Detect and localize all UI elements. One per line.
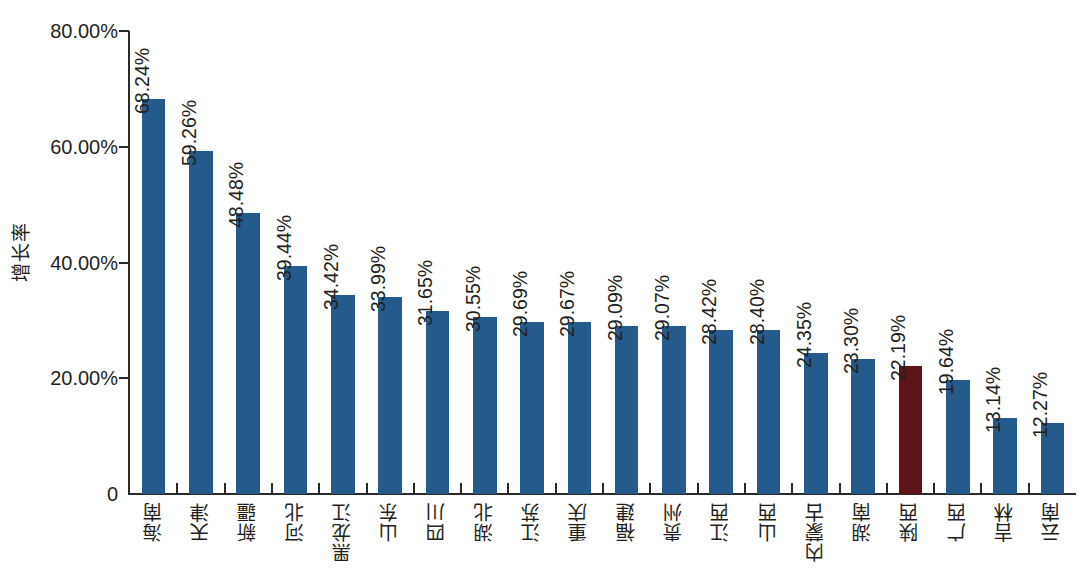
- bar-value-label: 28.40%: [746, 278, 769, 344]
- bar-group: 29.07%贵州: [662, 0, 686, 576]
- x-axis-category-label: 天津: [191, 502, 211, 542]
- x-axis-tick-mark: [602, 483, 604, 494]
- bar-value-label: 30.55%: [462, 266, 485, 332]
- x-axis-category-label: 云南: [1042, 502, 1062, 542]
- bar-highlighted: [899, 366, 923, 494]
- bar-value-label: 19.64%: [935, 329, 958, 395]
- bar-group: 33.99%山东: [378, 0, 402, 576]
- bar-value-label: 59.26%: [178, 100, 201, 166]
- x-axis-tick-mark: [839, 483, 841, 494]
- x-axis-category-label: 贵州: [664, 502, 684, 542]
- bar-value-label: 33.99%: [367, 246, 390, 312]
- plot-area: 68.24%海南59.26%天津48.48%新疆39.44%河北34.42%黑龙…: [0, 0, 1080, 576]
- bar-chart: 增长率 80.00%60.00%40.00%20.00%0 68.24%海南59…: [0, 0, 1080, 576]
- x-axis-category-label: 吉林: [995, 502, 1015, 542]
- x-axis-tick-mark: [744, 483, 746, 494]
- x-axis-tick-mark: [933, 483, 935, 494]
- bar: [851, 359, 875, 494]
- bar-value-label: 24.35%: [793, 302, 816, 368]
- bar-value-label: 23.30%: [840, 308, 863, 374]
- bar: [142, 99, 166, 494]
- bar: [709, 330, 733, 494]
- bar: [946, 380, 970, 494]
- x-axis-tick-mark: [1028, 483, 1030, 494]
- bar-group: 30.55%湖北: [473, 0, 497, 576]
- bar: [189, 151, 213, 494]
- x-axis-category-label: 湖北: [475, 502, 495, 542]
- bar-value-label: 39.44%: [273, 215, 296, 281]
- bar-group: 29.67%重庆: [568, 0, 592, 576]
- x-axis-category-label: 海南: [144, 502, 164, 542]
- bar: [568, 322, 592, 494]
- bar-group: 24.35%内蒙古: [804, 0, 828, 576]
- bar-value-label: 13.14%: [982, 367, 1005, 433]
- bar-group: 22.19%陕西: [899, 0, 923, 576]
- bar-group: 29.69%江苏: [520, 0, 544, 576]
- x-axis-category-label: 重庆: [569, 502, 589, 542]
- bar: [331, 295, 355, 494]
- bar-group: 34.42%黑龙江: [331, 0, 355, 576]
- bar: [804, 353, 828, 494]
- x-axis-category-label: 河北: [286, 502, 306, 542]
- bar: [378, 297, 402, 494]
- x-axis-tick-mark: [649, 483, 651, 494]
- x-axis-category-label: 湖南: [853, 502, 873, 542]
- x-axis-category-label: 山东: [380, 502, 400, 542]
- bar-value-label: 48.48%: [225, 162, 248, 228]
- bar: [757, 330, 781, 494]
- x-axis-tick-mark: [460, 483, 462, 494]
- bar: [520, 322, 544, 494]
- bar-group: 39.44%河北: [284, 0, 308, 576]
- y-axis-tick-mark: [119, 377, 129, 379]
- x-axis-category-label: 陕西: [901, 502, 921, 542]
- bar: [615, 326, 639, 494]
- bar: [236, 213, 260, 494]
- bar-group: 59.26%天津: [189, 0, 213, 576]
- x-axis-tick-mark: [886, 483, 888, 494]
- bar: [662, 326, 686, 494]
- bar-group: 12.27%云南: [1041, 0, 1065, 576]
- x-axis-category-label: 福建: [617, 502, 637, 542]
- bar-value-label: 12.27%: [1029, 372, 1052, 438]
- bar-value-label: 29.07%: [651, 275, 674, 341]
- bar-value-label: 31.65%: [414, 260, 437, 326]
- bar-group: 28.40%山西: [757, 0, 781, 576]
- bar-value-label: 22.19%: [887, 314, 910, 380]
- x-axis-category-label: 黑龙江: [333, 502, 353, 562]
- x-axis-category-label: 新疆: [238, 502, 258, 542]
- bar: [426, 311, 450, 494]
- x-axis-category-label: 江苏: [522, 502, 542, 542]
- bar-group: 68.24%海南: [142, 0, 166, 576]
- x-axis-category-label: 广西: [948, 502, 968, 542]
- x-axis-tick-mark: [366, 483, 368, 494]
- bar-value-label: 28.42%: [698, 278, 721, 344]
- x-axis-tick-mark: [176, 483, 178, 494]
- bar-group: 29.09%福建: [615, 0, 639, 576]
- x-axis-tick-mark: [507, 483, 509, 494]
- x-axis-category-label: 四川: [428, 502, 448, 542]
- bar-group: 31.65%四川: [426, 0, 450, 576]
- x-axis-tick-mark: [980, 483, 982, 494]
- x-axis-tick-mark: [791, 483, 793, 494]
- bar-value-label: 34.42%: [320, 244, 343, 310]
- bar-value-label: 29.69%: [509, 271, 532, 337]
- bar-group: 13.14%吉林: [993, 0, 1017, 576]
- bar-group: 28.42%江西: [709, 0, 733, 576]
- bar-group: 48.48%新疆: [236, 0, 260, 576]
- bar-value-label: 68.24%: [131, 48, 154, 114]
- bar: [284, 266, 308, 494]
- x-axis-category-label: 内蒙古: [806, 502, 826, 562]
- x-axis-tick-mark: [413, 483, 415, 494]
- y-axis-tick-mark: [119, 146, 129, 148]
- bar-value-label: 29.09%: [604, 275, 627, 341]
- bar-value-label: 29.67%: [556, 271, 579, 337]
- y-axis-tick-mark: [119, 262, 129, 264]
- x-axis-tick-mark: [271, 483, 273, 494]
- y-axis-tick-mark: [119, 30, 129, 32]
- x-axis-category-label: 山西: [759, 502, 779, 542]
- x-axis-tick-mark: [697, 483, 699, 494]
- x-axis-tick-mark: [318, 483, 320, 494]
- x-axis-tick-mark: [555, 483, 557, 494]
- bar-group: 23.30%湖南: [851, 0, 875, 576]
- bar: [473, 317, 497, 494]
